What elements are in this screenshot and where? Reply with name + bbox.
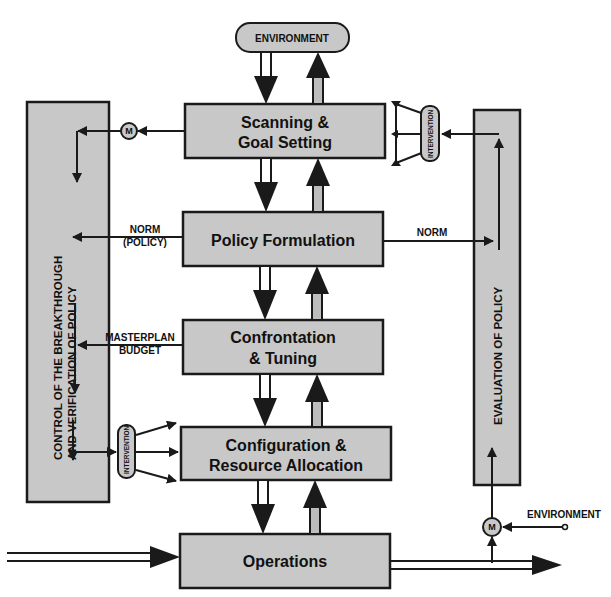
policy-process-diagram: CONTROL OF THE BREAKTHROUGH AND VERIFICA… (0, 0, 611, 597)
control-panel-label-line1: CONTROL OF THE BREAKTHROUGH (52, 256, 64, 460)
environment-top-label: ENVIRONMENT (255, 33, 329, 44)
monitor-right-symbol: M (488, 522, 496, 532)
environment-right-label: ENVIRONMENT (527, 509, 601, 520)
box-configuration-line1: Configuration & (226, 437, 347, 454)
box-scanning-line2: Goal Setting (238, 134, 332, 151)
box-confrontation-line2: & Tuning (249, 350, 317, 367)
norm-label: NORM (130, 224, 161, 235)
box-confrontation-line1: Confrontation (230, 329, 336, 346)
evaluation-panel-label: EVALUATION OF POLICY (492, 286, 504, 425)
norm-right-label: NORM (417, 227, 448, 238)
environment-top: ENVIRONMENT (236, 23, 349, 52)
box-scanning: Scanning & Goal Setting (185, 104, 385, 158)
policy-label: (POLICY) (123, 237, 167, 248)
box-scanning-line1: Scanning & (241, 114, 329, 131)
box-configuration: Configuration & Resource Allocation (181, 427, 391, 480)
intervention-right-label: INTERVENTION (427, 109, 434, 158)
box-configuration-line2: Resource Allocation (209, 457, 363, 474)
control-panel: CONTROL OF THE BREAKTHROUGH AND VERIFICA… (27, 102, 109, 502)
box-operations-line1: Operations (243, 553, 328, 570)
input-flow (7, 546, 180, 568)
output-flow (390, 555, 562, 575)
box-confrontation: Confrontation & Tuning (183, 320, 383, 374)
box-operations: Operations (180, 534, 390, 588)
evaluation-panel: EVALUATION OF POLICY (474, 110, 520, 485)
box-policy-formulation: Policy Formulation (183, 212, 383, 266)
box-policy-line1: Policy Formulation (211, 232, 355, 249)
monitor-left-symbol: M (125, 126, 133, 136)
budget-label: BUDGET (119, 345, 161, 356)
intervention-left-label: INTERVENTION (123, 425, 130, 474)
masterplan-label: MASTERPLAN (105, 332, 174, 343)
